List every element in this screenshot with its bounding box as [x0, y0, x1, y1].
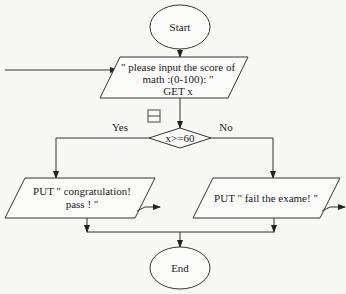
- minus-box-icon[interactable]: [148, 110, 160, 122]
- fail-output-node: PUT " fail the exame! ": [193, 178, 340, 218]
- input-node: " please input the score of math :(0-100…: [100, 57, 248, 98]
- pass-line-2: pass ! ": [66, 198, 99, 210]
- flowchart: Start " please input the score of math :…: [0, 0, 346, 294]
- input-line-1: " please input the score of: [121, 61, 235, 73]
- start-label: Start: [170, 21, 191, 33]
- yes-label: Yes: [112, 121, 128, 133]
- start-node: Start: [150, 5, 210, 49]
- pass-output-node: PUT " congratulation! pass ! ": [5, 178, 155, 218]
- pass-line-1: PUT " congratulation!: [33, 185, 131, 197]
- decision-label: x>=60: [166, 132, 195, 144]
- end-label: End: [171, 262, 189, 274]
- edge-no: [211, 138, 273, 178]
- decision-node: x>=60: [149, 128, 211, 148]
- input-line-3: GET x: [163, 85, 193, 97]
- no-label: No: [219, 121, 233, 133]
- end-node: End: [150, 247, 210, 289]
- edge-yes: [56, 138, 149, 178]
- fail-line-1: PUT " fail the exame! ": [214, 192, 318, 204]
